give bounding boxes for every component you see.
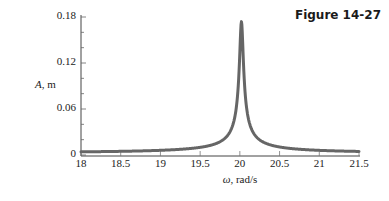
- x-tick-label: 21.5: [344, 157, 374, 169]
- y-tick-label: 0.18: [46, 9, 76, 21]
- y-axis-symbol: A: [35, 78, 42, 90]
- x-tick-label: 18.5: [106, 157, 136, 169]
- y-axis-label: A, m: [35, 78, 56, 90]
- axes: [81, 15, 360, 156]
- amplitude-curve: [81, 22, 359, 152]
- x-tick-label: 20.5: [265, 157, 295, 169]
- x-axis-label: ω, rad/s: [190, 173, 290, 185]
- y-axis-unit: , m: [42, 78, 56, 90]
- x-tick-label: 20: [225, 157, 255, 169]
- x-tick-label: 18: [66, 157, 96, 169]
- x-tick-label: 19.5: [185, 157, 215, 169]
- x-axis-unit: , rad/s: [230, 173, 257, 185]
- y-tick-marks: [81, 17, 86, 155]
- figure-label: Figure 14-27: [295, 8, 381, 22]
- x-tick-label: 19: [145, 157, 175, 169]
- y-tick-label: 0.06: [46, 101, 76, 113]
- y-tick-label: 0.12: [46, 55, 76, 67]
- x-tick-label: 21: [304, 157, 334, 169]
